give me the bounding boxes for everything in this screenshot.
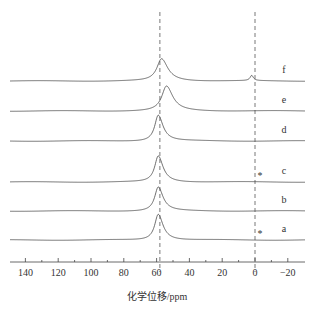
- spectrum-trace-d: [10, 115, 305, 141]
- x-axis: 140120100806040200−20: [10, 258, 305, 278]
- asterisk-marker: *: [258, 228, 263, 239]
- asterisk-marker: *: [258, 170, 263, 181]
- trace-labels: a*bc*def: [258, 64, 287, 239]
- x-tick-label: 120: [51, 267, 66, 278]
- trace-label-e: e: [282, 94, 287, 105]
- spectrum-trace-b: [10, 187, 305, 211]
- x-tick-label: 80: [119, 267, 129, 278]
- trace-label-b: b: [282, 194, 287, 205]
- x-tick-label: 100: [84, 267, 99, 278]
- x-tick-label: −20: [280, 267, 296, 278]
- trace-label-d: d: [282, 124, 287, 135]
- nmr-spectra-chart: a*bc*def 140120100806040200−20 化学位移/ppm: [0, 0, 315, 317]
- x-tick-label: 40: [184, 267, 194, 278]
- x-tick-label: 0: [253, 267, 258, 278]
- trace-label-f: f: [282, 64, 286, 75]
- x-tick-label: 20: [217, 267, 227, 278]
- reference-lines: [160, 12, 255, 272]
- x-axis-label: 化学位移/ppm: [127, 290, 188, 302]
- trace-label-c: c: [282, 165, 287, 176]
- spectrum-trace-f: [10, 59, 305, 82]
- trace-label-a: a: [282, 223, 287, 234]
- spectra-traces: [10, 59, 305, 241]
- x-tick-label: 140: [18, 267, 33, 278]
- spectrum-trace-e: [10, 86, 305, 111]
- x-tick-label: 60: [152, 267, 162, 278]
